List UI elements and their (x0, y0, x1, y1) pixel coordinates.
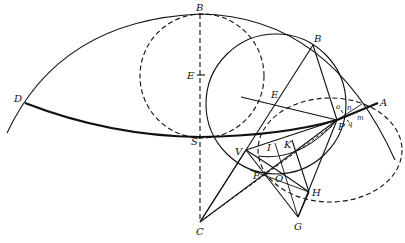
label-S: S (191, 136, 198, 147)
label-B-top: B (195, 2, 203, 13)
line-V-G (246, 150, 298, 217)
label-E-left: E (270, 89, 279, 100)
label-K: K (283, 139, 292, 150)
line-H-G (298, 192, 309, 217)
label-n: n (347, 104, 352, 112)
dashed-P-C (204, 126, 332, 219)
tick-o (341, 110, 343, 113)
label-F: F (252, 170, 261, 181)
label-P: P (337, 121, 345, 132)
dashed-circle-right (258, 98, 402, 202)
label-G: G (294, 221, 302, 232)
label-A: A (379, 97, 387, 108)
label-C: C (196, 226, 204, 237)
label-D: D (13, 93, 22, 104)
geometry-diagram: B E D S C B E A o n m q P V I K F O H G (0, 0, 405, 243)
dashed-circle-E (140, 14, 264, 138)
solid-circle-B (206, 34, 346, 174)
label-H: H (311, 187, 321, 198)
label-q: q (348, 120, 353, 128)
line-P-V (246, 120, 337, 150)
label-m: m (357, 114, 364, 122)
thick-arc-D-S-P (25, 103, 337, 137)
label-O: O (275, 173, 283, 184)
line-V-C (200, 150, 246, 222)
label-E-center: E (186, 70, 195, 81)
line-B-P (313, 45, 337, 120)
label-o: o (336, 103, 340, 111)
label-B-right: B (313, 33, 321, 44)
label-I: I (266, 142, 272, 153)
